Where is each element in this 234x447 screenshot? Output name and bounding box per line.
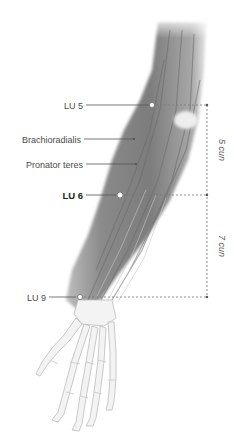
measurement-label-7-cun: 7 cun	[217, 235, 227, 257]
hand-bones	[36, 300, 116, 431]
tick-dot-lu6	[206, 194, 208, 196]
acupoint-lu5[interactable]	[149, 102, 154, 107]
label-lu9: LU 9	[27, 293, 46, 303]
label-pronator-teres: Pronator teres	[26, 160, 84, 170]
epicondyle-highlight	[174, 111, 198, 129]
label-lu6: LU 6	[62, 190, 83, 201]
tick-dot-lu5	[206, 104, 208, 106]
brachioradialis-dot	[133, 138, 135, 140]
forearm-diagram: 5 cun 7 cun LU 5 Brachioradialis Pronato…	[0, 0, 234, 447]
acupoint-lu9[interactable]	[77, 294, 82, 299]
label-lu5: LU 5	[64, 101, 83, 111]
little-finger	[106, 322, 116, 410]
forearm-muscles	[66, 18, 212, 312]
measurement-label-5-cun: 5 cun	[217, 139, 227, 161]
tick-dot-lu9	[206, 296, 208, 298]
label-brachioradialis: Brachioradialis	[22, 135, 82, 145]
pronator-teres-dot	[135, 163, 137, 165]
acupoint-lu6[interactable]	[117, 192, 123, 198]
forearm-silhouette	[66, 22, 206, 312]
